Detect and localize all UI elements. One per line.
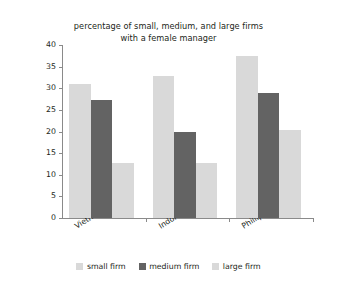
y-tick-mark [59,110,62,111]
y-tick-mark [59,153,62,154]
y-tick-label: 35 [34,62,56,71]
x-axis-line [62,218,313,219]
bar [279,130,301,218]
x-axis-separator [229,218,230,222]
legend-item[interactable]: medium firm [139,262,200,271]
y-axis-line [62,45,63,218]
bar [112,163,134,218]
plot-area: percent 0510152025303540 VietnamIndonesi… [62,45,313,218]
legend-label: small firm [87,262,126,271]
bar [236,56,258,218]
bar [69,84,91,218]
y-tick-mark [59,196,62,197]
y-tick-mark [59,88,62,89]
legend-swatch [76,263,83,270]
y-tick-mark [59,45,62,46]
y-tick-label: 25 [34,105,56,114]
bar [258,93,280,218]
y-tick-mark [59,67,62,68]
chart-legend: small firmmedium firmlarge firm [0,262,337,271]
bar-chart-figure: percentage of small, medium, and large f… [0,0,337,287]
legend-label: large firm [223,262,261,271]
y-tick-label: 40 [34,40,56,49]
x-axis-separator [313,218,314,222]
legend-swatch [139,263,146,270]
y-tick-label: 10 [34,170,56,179]
y-tick-label: 30 [34,83,56,92]
legend-label: medium firm [149,262,199,271]
y-tick-label: 0 [34,213,56,222]
legend-item[interactable]: small firm [76,262,125,271]
bar [196,163,218,218]
y-tick-mark [59,175,62,176]
bar [91,100,113,218]
bar [153,76,175,218]
bar [174,132,196,219]
legend-swatch [212,263,219,270]
y-tick-label: 20 [34,127,56,136]
y-tick-label: 5 [34,191,56,200]
x-axis-separator [146,218,147,222]
y-tick-mark [59,218,62,219]
chart-title-line-1: percentage of small, medium, and large f… [0,20,337,32]
y-tick-label: 15 [34,148,56,157]
y-tick-mark [59,132,62,133]
legend-item[interactable]: large firm [212,262,260,271]
